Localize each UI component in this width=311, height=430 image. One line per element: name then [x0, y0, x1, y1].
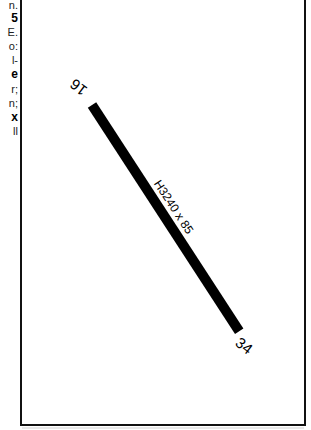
text-fragment: r;	[11, 83, 18, 95]
text-fragment: 5	[11, 12, 18, 24]
text-fragment: n.	[9, 0, 18, 11]
text-fragment: n;	[9, 97, 18, 109]
adjacent-page-text-column: n. 5 E. o: l- e r; n; x ll	[0, 0, 19, 190]
text-fragment: e	[11, 68, 18, 80]
text-fragment: ll	[13, 125, 18, 137]
text-fragment: l-	[12, 54, 18, 66]
text-fragment: x	[11, 111, 18, 123]
text-fragment: E.	[8, 26, 18, 38]
text-fragment: o:	[9, 40, 18, 52]
